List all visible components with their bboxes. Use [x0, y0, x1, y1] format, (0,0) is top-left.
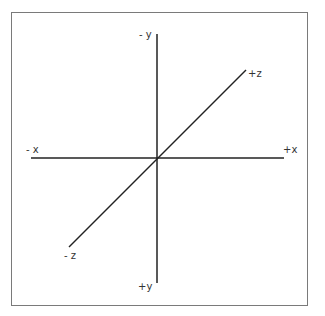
pos-z-label: +z — [248, 68, 262, 79]
neg-y-label: - y — [139, 29, 152, 40]
pos-y-label: +y — [138, 281, 152, 292]
axes-diagram: - y +y - x +x +z - z — [0, 0, 325, 316]
pos-x-label: +x — [283, 144, 297, 155]
neg-x-label: - x — [26, 144, 39, 155]
neg-z-label: - z — [64, 250, 76, 261]
